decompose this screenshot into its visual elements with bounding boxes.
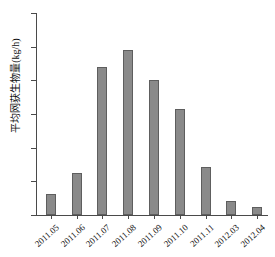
y-tick [31, 114, 36, 115]
y-tick [31, 215, 36, 216]
bar [149, 80, 159, 215]
x-axis-labels: 2011.052011.062011.072011.082011.092011.… [36, 219, 268, 257]
bar [175, 109, 185, 215]
bar [123, 50, 133, 215]
plot-area: 0102030405060 [36, 13, 268, 215]
y-axis-title: 平均网获生物量(kg/h) [7, 26, 22, 146]
bar [226, 201, 236, 215]
y-tick [31, 148, 36, 149]
bar [97, 67, 107, 215]
y-tick [31, 47, 36, 48]
y-tick [31, 80, 36, 81]
bar-chart: 平均网获生物量(kg/h) 0102030405060 2011.052011.… [0, 0, 275, 257]
bar [46, 194, 56, 215]
y-axis-line [36, 13, 37, 215]
bar [252, 207, 262, 215]
bar [72, 173, 82, 215]
x-axis-line [36, 215, 268, 216]
bar [201, 167, 211, 215]
y-tick [31, 13, 36, 14]
y-tick [31, 181, 36, 182]
